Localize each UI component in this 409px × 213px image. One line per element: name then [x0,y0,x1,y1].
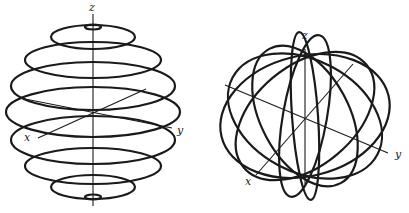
left-x-axis [38,89,146,138]
right-z-label: z [301,29,308,42]
left-y-label: y [176,124,184,137]
right-y-label: y [394,148,402,161]
left-x-label: x [24,131,31,144]
left-z-label: z [88,1,95,14]
right-sphere: z x y [206,26,403,205]
figure-canvas: z x y z x y [0,0,409,213]
right-x-label: x [245,175,252,188]
left-sphere: z x y [6,1,184,206]
